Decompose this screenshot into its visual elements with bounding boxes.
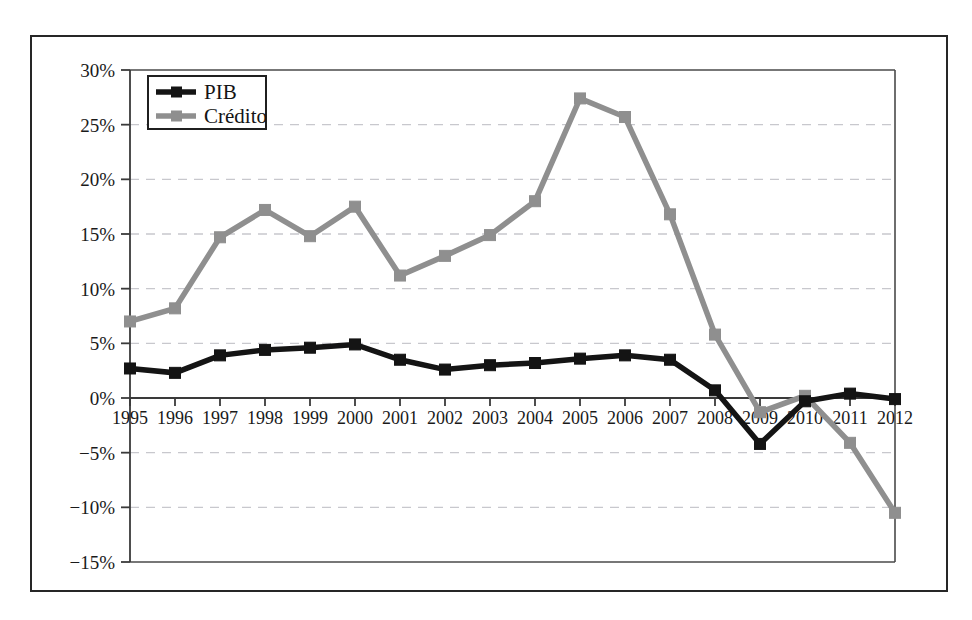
- y-tick-label: 25%: [80, 115, 115, 136]
- data-point-marker: [395, 270, 406, 281]
- x-tick-label: 2006: [607, 408, 643, 428]
- x-tick-label: 2002: [427, 408, 463, 428]
- data-point-marker: [125, 316, 136, 327]
- data-point-marker: [215, 350, 226, 361]
- x-tick-label: 2004: [517, 408, 553, 428]
- data-point-marker: [575, 353, 586, 364]
- x-tick-label: 2001: [382, 408, 418, 428]
- data-point-marker: [890, 507, 901, 518]
- x-tick-label: 2007: [652, 408, 688, 428]
- series-line: [130, 98, 895, 512]
- data-point-marker: [260, 204, 271, 215]
- line-chart: 30%25%20%15%10%5%0%−5%−10%−15% 199519961…: [0, 0, 972, 620]
- data-point-marker: [395, 354, 406, 365]
- gridlines: [130, 125, 895, 508]
- data-point-marker: [125, 363, 136, 374]
- x-tick-label: 2011: [832, 408, 867, 428]
- y-tick-label: 15%: [80, 224, 115, 245]
- x-tick-label: 1995: [112, 408, 148, 428]
- plot-area-border: [130, 70, 895, 562]
- data-point-marker: [350, 339, 361, 350]
- x-tick-label: 2008: [697, 408, 733, 428]
- y-tick-label: −5%: [79, 443, 115, 464]
- data-point-marker: [170, 367, 181, 378]
- data-point-marker: [485, 230, 496, 241]
- chart-legend: PIBCrédito: [148, 76, 267, 129]
- legend-label-pib: PIB: [204, 80, 237, 104]
- legend-swatch-marker-pib: [171, 87, 182, 98]
- x-tick-label: 1997: [202, 408, 238, 428]
- data-point-marker: [845, 388, 856, 399]
- y-tick-label: 20%: [80, 169, 115, 190]
- x-tick-label: 2005: [562, 408, 598, 428]
- y-tick-label: −10%: [69, 497, 115, 518]
- data-point-marker: [620, 350, 631, 361]
- data-point-marker: [170, 303, 181, 314]
- data-point-marker: [665, 354, 676, 365]
- data-point-marker: [710, 329, 721, 340]
- y-tick-label: 5%: [90, 333, 116, 354]
- series-line: [130, 344, 895, 443]
- x-tick-label: 1998: [247, 408, 283, 428]
- legend-label-credito: Crédito: [204, 104, 267, 128]
- data-point-marker: [350, 201, 361, 212]
- data-point-marker: [440, 364, 451, 375]
- x-tick-label: 2003: [472, 408, 508, 428]
- figure-container: 30%25%20%15%10%5%0%−5%−10%−15% 199519961…: [0, 0, 972, 620]
- data-point-marker: [215, 232, 226, 243]
- series-credito: [125, 93, 901, 518]
- data-point-marker: [305, 342, 316, 353]
- x-tick-label: 2000: [337, 408, 373, 428]
- x-tick-label: 1996: [157, 408, 193, 428]
- legend-swatch-marker-credito: [171, 111, 182, 122]
- data-series-group: [125, 93, 901, 518]
- data-point-marker: [755, 438, 766, 449]
- data-point-marker: [260, 344, 271, 355]
- data-point-marker: [800, 396, 811, 407]
- x-tick-label: 2012: [877, 408, 913, 428]
- y-tick-label: 30%: [80, 60, 115, 81]
- series-pib: [125, 339, 901, 449]
- data-point-marker: [440, 250, 451, 261]
- data-point-marker: [620, 112, 631, 123]
- y-tick-label: −15%: [69, 552, 115, 573]
- data-point-marker: [575, 93, 586, 104]
- data-point-marker: [710, 385, 721, 396]
- data-point-marker: [530, 196, 541, 207]
- data-point-marker: [890, 394, 901, 405]
- data-point-marker: [845, 437, 856, 448]
- data-point-marker: [305, 231, 316, 242]
- y-tick-label: 0%: [90, 388, 116, 409]
- x-tick-label: 1999: [292, 408, 328, 428]
- data-point-marker: [665, 209, 676, 220]
- y-axis-tick-labels: 30%25%20%15%10%5%0%−5%−10%−15%: [69, 60, 115, 573]
- data-point-marker: [485, 360, 496, 371]
- y-tick-label: 10%: [80, 279, 115, 300]
- data-point-marker: [755, 407, 766, 418]
- data-point-marker: [530, 358, 541, 369]
